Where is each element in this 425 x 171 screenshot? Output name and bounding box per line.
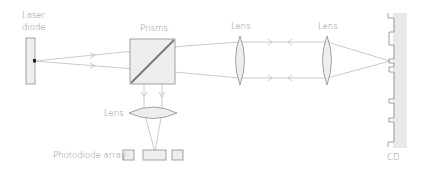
label-lens-1: Lens <box>231 21 251 31</box>
label-laser-line2: diode <box>22 22 46 32</box>
photodiode-cell-center <box>143 150 166 160</box>
label-lens-2: Lens <box>318 21 338 31</box>
label-laser-line1: Laser <box>22 10 46 20</box>
diode-emitter-icon <box>33 59 36 63</box>
label-lens-lower: Lens <box>104 108 124 118</box>
photodiode-array <box>123 150 183 160</box>
photodiode-cell-right <box>172 150 183 160</box>
laser-beams <box>34 42 390 152</box>
cd-surface <box>388 13 407 148</box>
cd-pickup-diagram: Laser diode Prisms Lens Lens CD Lens Pho… <box>0 0 425 171</box>
label-prisms: Prisms <box>140 23 168 33</box>
label-photodiode-array: Photodiode array <box>53 150 126 160</box>
laser-diode <box>26 38 36 84</box>
prism-beam-splitter <box>130 39 175 84</box>
focusing-lens <box>129 107 177 119</box>
label-cd: CD <box>387 152 399 162</box>
